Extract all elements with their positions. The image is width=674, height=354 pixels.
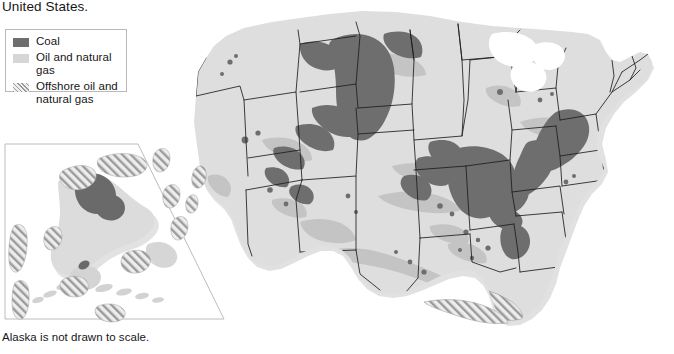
contiguous-us-landmass [186,11,654,326]
coal-swatch-icon [13,38,29,47]
legend-label-oil-gas: Oil and natural gas [36,51,126,78]
alaska-inset-group [5,144,224,322]
legend-label-coal: Coal [36,35,60,49]
alaska-scale-note: Alaska is not drawn to scale. [2,330,149,344]
oil-gas-swatch-icon [13,54,29,63]
map-legend: Coal Oil and natural gas Offshore oil an… [5,29,127,92]
legend-item-oil-gas: Oil and natural gas [6,51,126,78]
legend-item-coal: Coal [6,35,126,49]
offshore-swatch-icon [13,83,29,92]
legend-label-offshore: Offshore oil and natural gas [36,80,126,107]
map-figure: United States. [0,0,674,354]
legend-item-offshore: Offshore oil and natural gas [6,80,126,107]
